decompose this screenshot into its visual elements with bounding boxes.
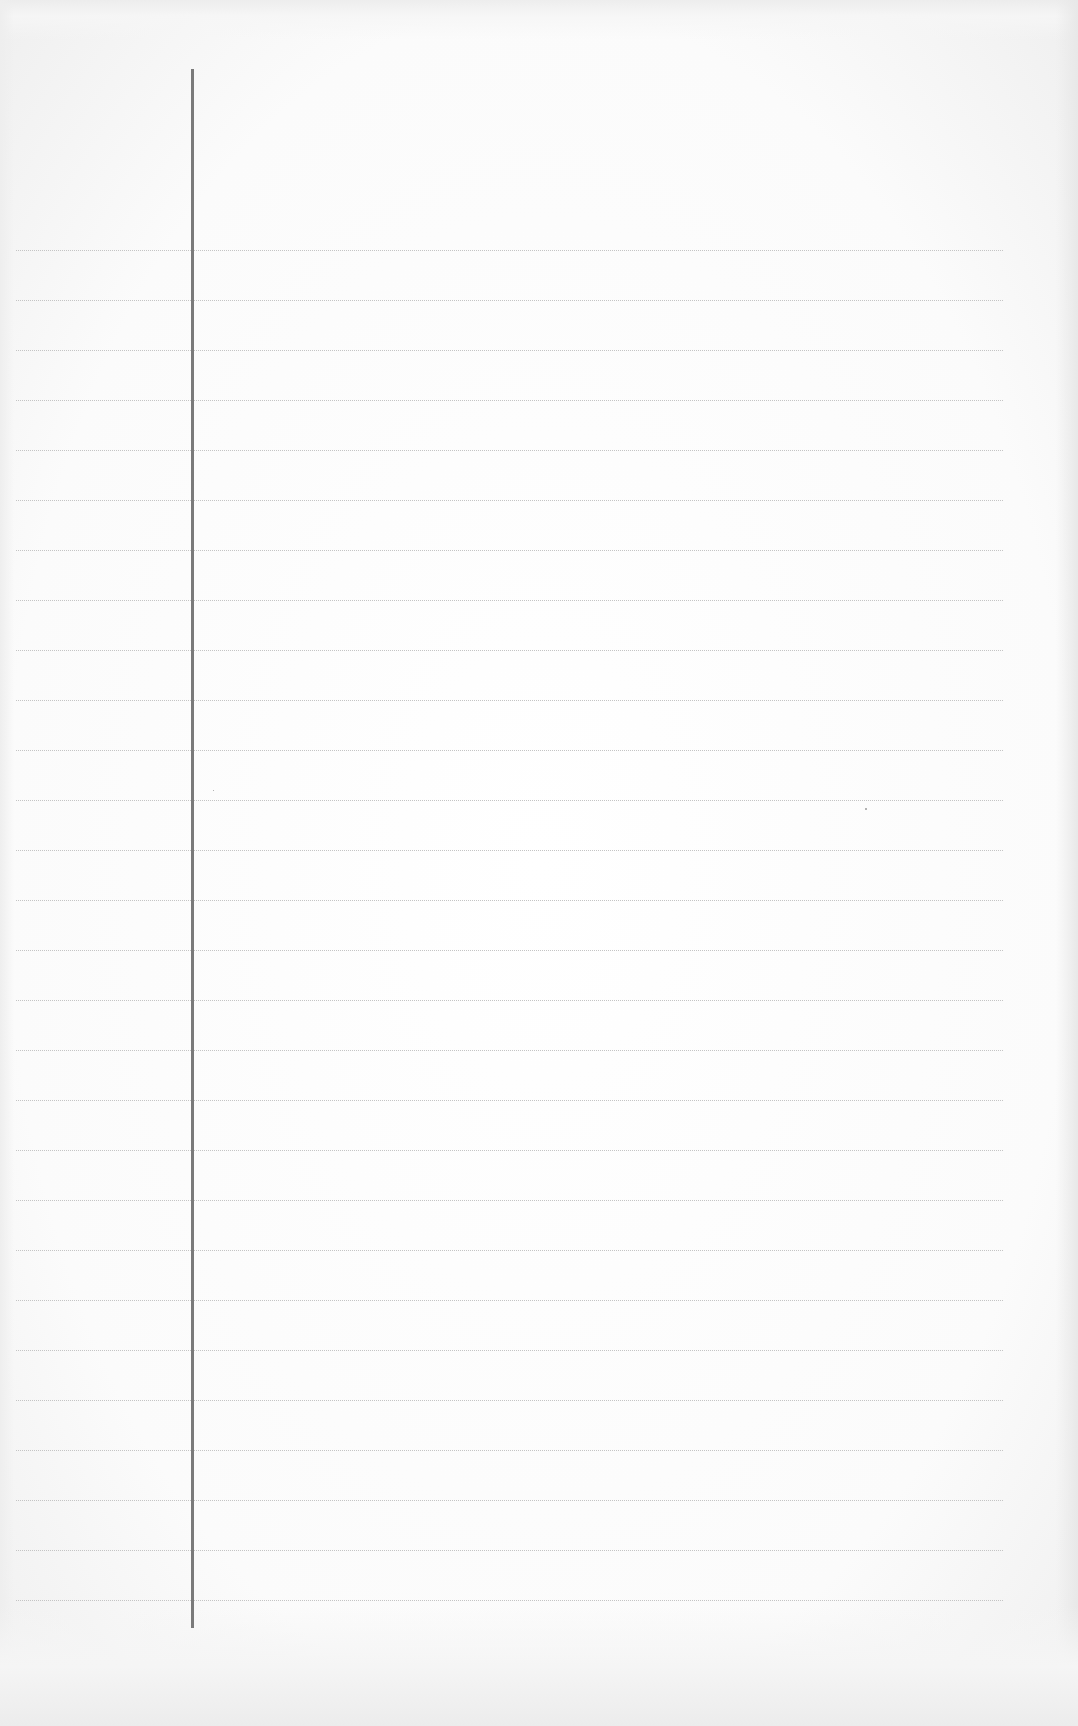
ruled-line [16,1350,1003,1351]
margin-line [191,69,194,1628]
ruled-line [16,350,1003,351]
ruled-line [16,900,1003,901]
paper-speck [865,808,867,810]
ruled-line [16,950,1003,951]
ruled-line [16,1150,1003,1151]
page-left-edge [0,0,14,1726]
ruled-line [16,1500,1003,1501]
ruled-line [16,1250,1003,1251]
ruled-line [16,1600,1003,1601]
ruled-line [16,750,1003,751]
ruled-line [16,800,1003,801]
ruled-line [16,300,1003,301]
notebook-page [0,0,1078,1726]
ruled-line [16,700,1003,701]
ruled-line [16,1200,1003,1201]
ruled-line [16,550,1003,551]
page-top-edge [0,0,1078,40]
ruled-line [16,250,1003,251]
ruled-line [16,600,1003,601]
ruled-line [16,1000,1003,1001]
ruled-line [16,1100,1003,1101]
ruled-line [16,400,1003,401]
page-right-edge [1056,0,1078,1726]
ruled-line [16,450,1003,451]
ruled-line [16,1050,1003,1051]
ruled-line [16,1300,1003,1301]
paper-speck [213,790,214,791]
ruled-line [16,1550,1003,1551]
ruled-line [16,1400,1003,1401]
ruled-line [16,500,1003,501]
ruled-line [16,650,1003,651]
ruled-line [16,1450,1003,1451]
ruled-line [16,850,1003,851]
page-bottom-edge [0,1606,1078,1726]
